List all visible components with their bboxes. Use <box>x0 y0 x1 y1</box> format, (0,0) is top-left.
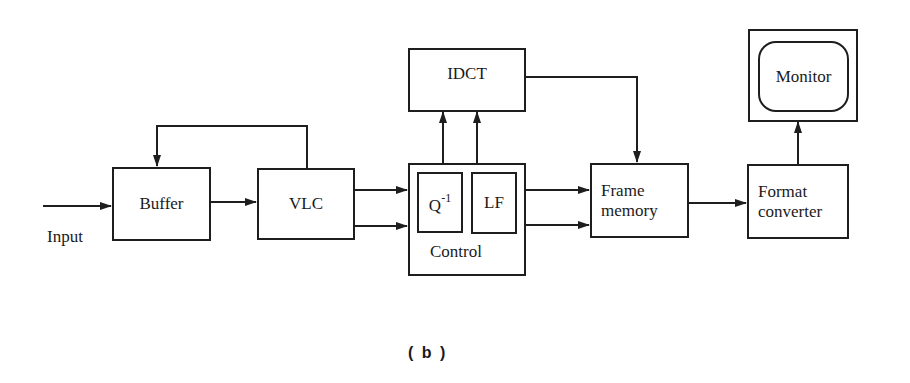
vlc-label: VLC <box>289 194 323 214</box>
figure-caption: ( b ) <box>408 344 447 362</box>
idct-block: IDCT <box>408 48 526 112</box>
frame-memory-block: Frame memory <box>590 163 689 238</box>
decoder-block-diagram: Input Buffer VLC IDCT Q-1 LF Control Fra… <box>0 0 910 383</box>
arrow-vlc-feedback-to-buffer <box>157 126 307 168</box>
frame-memory-label-line1: Frame <box>601 181 687 201</box>
control-label: Control <box>430 242 482 262</box>
arrow-idct-to-frame-memory <box>525 77 637 162</box>
format-converter-label-line2: converter <box>758 202 847 222</box>
input-label: Input <box>47 227 83 247</box>
idct-label: IDCT <box>447 64 487 84</box>
format-converter-block: Format converter <box>747 164 849 239</box>
format-converter-label-line1: Format <box>758 182 847 202</box>
q-inverse-label: Q-1 <box>429 190 451 216</box>
q-inverse-block: Q-1 <box>417 172 463 233</box>
control-block: Q-1 LF Control <box>408 163 526 276</box>
monitor-block: Monitor <box>748 29 858 122</box>
monitor-label: Monitor <box>776 67 832 87</box>
lf-label: LF <box>484 193 504 213</box>
buffer-block: Buffer <box>112 167 211 241</box>
lf-block: LF <box>471 172 517 234</box>
frame-memory-label-line2: memory <box>601 201 687 221</box>
buffer-label: Buffer <box>139 194 183 214</box>
vlc-block: VLC <box>257 168 355 240</box>
monitor-screen-icon: Monitor <box>758 41 849 112</box>
